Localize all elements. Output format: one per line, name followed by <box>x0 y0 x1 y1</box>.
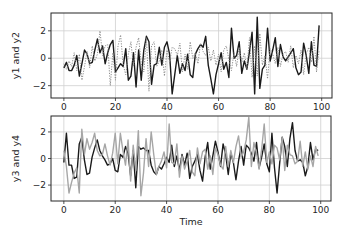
x-axis-label: Time <box>178 216 202 227</box>
x-tick-label: 40 <box>161 102 173 112</box>
x-tick-label: 0 <box>61 205 67 215</box>
y-tick-label: 0 <box>40 53 46 63</box>
x-tick-label: 80 <box>264 205 276 215</box>
x-tick-label: 100 <box>312 205 329 215</box>
series-y2-line <box>64 31 319 91</box>
bottom-subplot: 020406080100−202y3 and y4Time <box>10 116 332 227</box>
y-tick-label: 0 <box>40 154 46 164</box>
x-tick-label: 20 <box>110 102 122 112</box>
y-tick-label: 2 <box>40 26 46 36</box>
x-tick-label: 80 <box>264 102 276 112</box>
y-tick-label: −2 <box>33 180 46 190</box>
x-tick-label: 60 <box>212 205 224 215</box>
y-axis-label: y3 and y4 <box>10 135 21 182</box>
x-tick-label: 40 <box>161 205 173 215</box>
y-tick-label: −2 <box>33 81 46 91</box>
x-tick-label: 0 <box>61 102 67 112</box>
x-tick-label: 20 <box>109 205 121 215</box>
y-axis-label: y1 and y2 <box>10 32 21 79</box>
top-subplot: 020406080100−202y1 and y2 <box>10 13 333 112</box>
figure: 020406080100−202y1 and y2 020406080100−2… <box>0 0 347 239</box>
x-tick-label: 60 <box>213 102 225 112</box>
x-tick-label: 100 <box>313 102 330 112</box>
y-tick-label: 2 <box>40 127 46 137</box>
